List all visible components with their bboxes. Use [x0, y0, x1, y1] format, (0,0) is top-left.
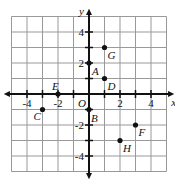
x-axis-label: x [170, 96, 175, 108]
x-tick-label: 4 [148, 97, 154, 109]
point-D [102, 76, 107, 81]
y-tick-label: -2 [75, 119, 84, 131]
y-arrow-icon [86, 9, 92, 15]
x-tick-label: -4 [22, 97, 32, 109]
point-label: H [122, 142, 132, 154]
point-label: C [34, 110, 42, 122]
point-G [102, 45, 107, 50]
point-label: A [91, 65, 99, 77]
point-label: E [51, 80, 59, 92]
point-E [55, 91, 60, 96]
point-label: G [108, 49, 116, 61]
origin-label: O [78, 97, 86, 109]
x-tick-label: 2 [117, 97, 123, 109]
y-tick-label: 4 [79, 26, 85, 38]
coordinate-plane: -4-22442-2-4xyO ABCDEFGH [0, 0, 175, 186]
y-axis-label: y [78, 5, 84, 17]
x-arrow-icon [4, 91, 10, 97]
point-H [117, 138, 122, 143]
x-tick-label: -2 [53, 97, 62, 109]
point-label: F [138, 126, 146, 138]
y-arrow-icon [86, 173, 92, 179]
point-A [86, 60, 91, 65]
point-label: D [107, 80, 116, 92]
axes [4, 9, 175, 180]
point-F [133, 122, 138, 127]
labels: -4-22442-2-4xyO [22, 5, 175, 162]
y-tick-label: 2 [79, 57, 85, 69]
y-tick-label: -4 [75, 150, 85, 162]
point-label: B [91, 112, 98, 124]
